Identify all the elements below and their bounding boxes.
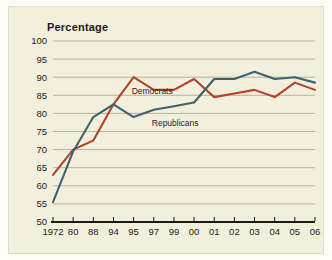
chart-panel: Percentage 50556065707580859095100 19728… [8,6,324,254]
data-series [53,72,315,202]
series-line-republicans [53,72,315,202]
y-axis-tick-label: 60 [36,180,47,191]
y-axis-tick-label: 100 [31,35,47,46]
x-axis-tick-label: 06 [310,226,321,237]
x-axis-tick-label: 80 [68,226,79,237]
y-axis-tick-labels: 50556065707580859095100 [31,35,47,227]
x-axis-tick-labels: 197280889495979900010203040506 [42,226,320,237]
y-axis-tick-label: 70 [36,144,47,155]
y-axis-tick-label: 75 [36,126,47,137]
x-axis-tick-label: 95 [128,226,139,237]
x-axis-tick-label: 97 [148,226,159,237]
y-axis-tick-label: 65 [36,162,47,173]
x-axis-tick-label: 03 [249,226,260,237]
chart-figure: Percentage 50556065707580859095100 19728… [0,0,332,260]
x-axis-tick-label: 1972 [42,226,63,237]
x-axis-tick-label: 99 [169,226,180,237]
x-axis-tick-label: 88 [88,226,99,237]
x-axis-tick-label: 02 [229,226,240,237]
y-axis-tick-label: 55 [36,198,47,209]
y-axis-tick-label: 90 [36,72,47,83]
series-label-republicans: Republicans [152,118,199,128]
series-label-democrats: Democrats [132,86,173,96]
line-chart-plot: 50556065707580859095100 1972808894959799… [9,7,324,254]
x-axis-tick-label: 05 [290,226,301,237]
x-axis [51,217,315,222]
y-axis-tick-label: 95 [36,54,47,65]
x-axis-tick-label: 04 [269,226,280,237]
x-axis-tick-label: 00 [189,226,200,237]
y-axis-tick-label: 80 [36,108,47,119]
x-axis-tick-label: 01 [209,226,220,237]
x-axis-tick-label: 94 [108,226,119,237]
y-axis-tick-label: 85 [36,90,47,101]
